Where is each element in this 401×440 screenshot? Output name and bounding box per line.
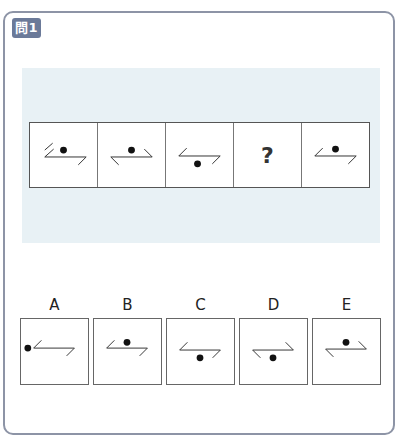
question-mark: ? [234, 123, 301, 187]
option-label: D [239, 296, 308, 318]
sequence-cell-4-unknown: ? [234, 123, 302, 187]
option-a-box[interactable] [20, 318, 89, 385]
option-label: E [312, 296, 381, 318]
figure-option-e-icon [313, 319, 380, 384]
option-e-box[interactable] [312, 318, 381, 385]
sequence-cell-2 [98, 123, 166, 187]
option-c-box[interactable] [166, 318, 235, 385]
option-label: B [93, 296, 162, 318]
option-d-box[interactable] [239, 318, 308, 385]
question-badge: 問1 [12, 18, 41, 38]
option-c[interactable]: C [166, 296, 235, 385]
figure-seq1-icon [30, 123, 97, 187]
figure-seq3-icon [166, 123, 233, 187]
option-e[interactable]: E [312, 296, 381, 385]
sequence-cell-5 [302, 123, 369, 187]
figure-option-b-icon [94, 319, 161, 384]
option-d[interactable]: D [239, 296, 308, 385]
figure-option-a-icon [21, 319, 88, 384]
figure-seq5-icon [302, 123, 369, 187]
option-a[interactable]: A [20, 296, 89, 385]
sequence-row: ? [29, 122, 370, 188]
answer-options: A B C [20, 296, 382, 388]
option-label: C [166, 296, 235, 318]
sequence-cell-1 [30, 123, 98, 187]
option-b-box[interactable] [93, 318, 162, 385]
option-b[interactable]: B [93, 296, 162, 385]
figure-option-c-icon [167, 319, 234, 384]
option-label: A [20, 296, 89, 318]
figure-seq2-icon [98, 123, 165, 187]
figure-option-d-icon [240, 319, 307, 384]
sequence-cell-3 [166, 123, 234, 187]
